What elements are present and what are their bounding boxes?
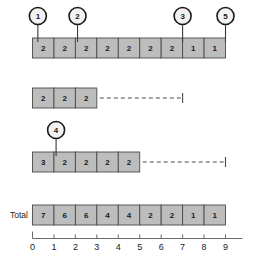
callout-marker-4[interactable]: 4 [48, 122, 65, 157]
bar-segment: 2 [75, 88, 96, 108]
segment-value-label: 2 [148, 211, 153, 220]
segment-value-label: 6 [62, 211, 67, 220]
callout-number-label: 5 [223, 12, 228, 21]
bar-segment: 6 [54, 205, 75, 225]
segment-value-label: 3 [41, 158, 46, 167]
axis-tick-label: 7 [180, 242, 185, 252]
axis-tick-label: 8 [202, 242, 207, 252]
callout-number-label: 3 [180, 12, 185, 21]
segment-value-label: 2 [62, 94, 67, 103]
bar-segment: 1 [183, 205, 204, 225]
bar-segment: 2 [75, 152, 96, 172]
bar-segment: 2 [54, 88, 75, 108]
callout-marker-3[interactable]: 3 [174, 8, 191, 43]
bar-segment: 2 [140, 38, 161, 58]
segment-value-label: 1 [213, 211, 218, 220]
segment-value-label: 2 [41, 44, 46, 53]
bar-segment: 2 [118, 38, 139, 58]
callout-number-label: 1 [36, 12, 41, 21]
callout-marker-2[interactable]: 2 [69, 8, 86, 43]
bar-segment: 7 [33, 205, 54, 225]
segment-value-label: 4 [105, 211, 110, 220]
axis-tick-label: 1 [51, 242, 56, 252]
bar-segment: 1 [204, 38, 225, 58]
segment-value-label: 2 [84, 158, 89, 167]
callout-number-label: 4 [54, 126, 59, 135]
axis-tick-label: 5 [137, 242, 142, 252]
bar-segment: 2 [161, 205, 182, 225]
segment-value-label: 1 [191, 44, 196, 53]
row-label-total: Total [10, 210, 28, 220]
bar-segment: 2 [161, 38, 182, 58]
segment-value-label: 2 [170, 211, 175, 220]
bar-segment: 1 [183, 38, 204, 58]
segment-value-label: 2 [105, 158, 110, 167]
segment-value-label: 1 [191, 211, 196, 220]
axis-tick-label: 3 [94, 242, 99, 252]
x-axis: 0123456789 [30, 232, 243, 252]
bar-segment: 1 [204, 205, 225, 225]
callout-number-label: 2 [75, 12, 80, 21]
bar-segment: 2 [54, 38, 75, 58]
segment-value-label: 2 [127, 158, 132, 167]
bar-segment: 2 [33, 38, 54, 58]
segment-value-label: 2 [148, 44, 153, 53]
segment-value-label: 7 [41, 211, 46, 220]
bar-segment: 2 [75, 38, 96, 58]
bar-row-1: 222222211 [33, 38, 226, 58]
callout-marker-5[interactable]: 5 [217, 8, 234, 43]
bar-segment: 2 [54, 152, 75, 172]
bar-segment: 2 [118, 152, 139, 172]
bar-segment: 3 [33, 152, 54, 172]
bar-row-3: 32222 [33, 152, 226, 172]
segment-value-label: 2 [84, 94, 89, 103]
segment-value-label: 4 [127, 211, 132, 220]
bar-segment: 6 [75, 205, 96, 225]
axis-tick-label: 9 [223, 242, 228, 252]
axis-tick-label: 6 [159, 242, 164, 252]
bar-segment: 2 [97, 152, 118, 172]
segment-value-label: 2 [84, 44, 89, 53]
bar-row-2: 222 [33, 88, 183, 108]
bar-row-4: 766442211Total [10, 205, 225, 225]
callout-group: 12354 [29, 8, 234, 157]
segment-value-label: 2 [62, 44, 67, 53]
callout-marker-1[interactable]: 1 [29, 8, 46, 43]
axis-tick-label: 0 [30, 242, 35, 252]
axis-tick-label: 4 [116, 242, 121, 252]
segment-value-label: 2 [105, 44, 110, 53]
chart-canvas: 22222221122232222766442211Total012345678… [0, 0, 255, 260]
bar-segment: 4 [118, 205, 139, 225]
axis-line [33, 232, 243, 239]
segment-value-label: 2 [170, 44, 175, 53]
bar-segment: 4 [97, 205, 118, 225]
segment-value-label: 6 [84, 211, 89, 220]
segment-value-label: 2 [62, 158, 67, 167]
segment-value-label: 1 [213, 44, 218, 53]
bar-segment: 2 [97, 38, 118, 58]
segment-value-label: 2 [127, 44, 132, 53]
segment-value-label: 2 [41, 94, 46, 103]
stacked-bar-chart: 22222221122232222766442211Total012345678… [0, 0, 255, 260]
bar-segment: 2 [33, 88, 54, 108]
axis-tick-label: 2 [73, 242, 78, 252]
bar-segment: 2 [140, 205, 161, 225]
